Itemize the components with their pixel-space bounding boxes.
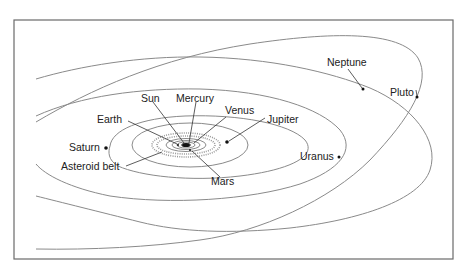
- uranus-label: Uranus: [300, 150, 334, 162]
- mars-icon: [189, 149, 191, 151]
- uranus-icon: [338, 156, 341, 159]
- sun-leader: [153, 102, 184, 143]
- neptune-leader: [348, 69, 362, 88]
- solar-system-diagram: Sun Mercury Venus Earth Jupiter Saturn A…: [0, 0, 470, 278]
- sun-label: Sun: [141, 92, 160, 104]
- earth-icon: [177, 144, 179, 146]
- asteroid-belt-leader: [126, 152, 162, 166]
- asteroid-belt-label: Asteroid belt: [61, 160, 119, 172]
- diagram-frame: [14, 20, 453, 259]
- sun-icon: [182, 143, 190, 147]
- saturn-orbit: [109, 116, 308, 179]
- mercury-label: Mercury: [176, 92, 215, 104]
- neptune-label: Neptune: [327, 56, 367, 68]
- jupiter-icon: [225, 140, 229, 144]
- venus-label: Venus: [225, 104, 254, 116]
- pluto-label: Pluto: [390, 86, 414, 98]
- mercury-leader: [189, 102, 196, 143]
- pluto-leader: [416, 90, 417, 96]
- jupiter-leader: [229, 118, 265, 141]
- jupiter-label: Jupiter: [267, 113, 299, 125]
- saturn-icon: [104, 146, 108, 150]
- mars-label: Mars: [211, 175, 234, 187]
- earth-label: Earth: [97, 113, 122, 125]
- saturn-label: Saturn: [69, 141, 100, 153]
